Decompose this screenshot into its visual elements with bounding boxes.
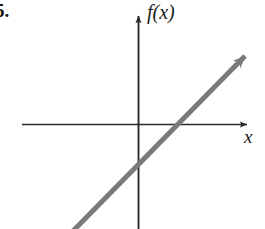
function-line: [72, 56, 245, 229]
y-axis-label: f(x): [147, 1, 175, 24]
coordinate-plane-graphic: [0, 0, 265, 229]
x-axis-label: x: [244, 126, 252, 148]
graph-figure: 5. f(x) x: [0, 0, 265, 229]
